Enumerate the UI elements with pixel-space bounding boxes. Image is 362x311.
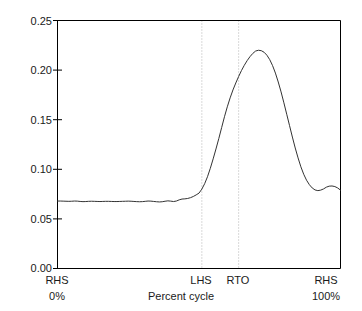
data-line-moment [58, 50, 341, 202]
plot-area [0, 0, 362, 311]
chart-figure: 0.25 0.20 0.15 0.10 0.05 0.00 RHS LHS RT… [0, 0, 362, 311]
